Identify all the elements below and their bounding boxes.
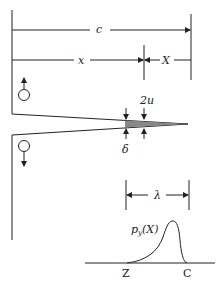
label-C: C xyxy=(183,267,191,280)
dimension-lambda: λ xyxy=(126,180,189,210)
label-2u: 2u xyxy=(139,94,154,107)
lower-load-pin xyxy=(19,141,30,167)
label-density: py(X) xyxy=(131,223,158,237)
label-lambda: λ xyxy=(153,189,161,202)
label-delta: δ xyxy=(122,143,129,156)
dimension-x: x xyxy=(12,54,143,67)
crack xyxy=(12,114,188,135)
distribution-plot: py(X) Z C xyxy=(85,221,215,280)
dimension-c: c xyxy=(12,23,190,36)
dimension-X: X xyxy=(145,54,191,67)
crack-diagram: c x X 2u δ xyxy=(0,0,220,283)
label-x: x xyxy=(78,54,85,67)
pin-icon xyxy=(19,90,30,101)
pin-icon xyxy=(19,141,30,152)
label-c: c xyxy=(96,23,102,36)
label-X: X xyxy=(161,54,171,67)
upper-load-pin xyxy=(19,78,30,101)
label-Z: Z xyxy=(122,267,130,280)
